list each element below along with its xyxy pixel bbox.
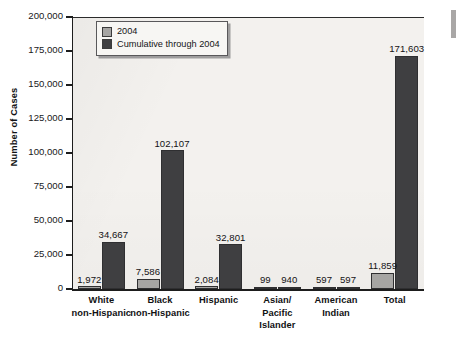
bar-value-label: 102,107 [143, 138, 201, 149]
x-axis-category-line: Indian [296, 307, 376, 320]
y-axis-tick-mark [66, 84, 73, 86]
bar [78, 286, 101, 289]
chart-legend: 2004 Cumulative through 2004 [96, 21, 228, 56]
y-axis-tick-mark [66, 254, 73, 256]
bar-value-label: 2,084 [178, 274, 236, 285]
bar [313, 287, 336, 289]
x-axis-labels: Whitenon-HispanicBlacknon-HispanicHispan… [72, 294, 424, 360]
legend-swatch-icon-2004 [102, 27, 112, 37]
bar-value-label: 32,801 [202, 232, 260, 243]
y-axis-tick-label: 125,000 [28, 112, 63, 123]
bar [395, 56, 418, 289]
legend-label-cumulative: Cumulative through 2004 [117, 39, 220, 50]
bar [137, 279, 160, 289]
bar-value-label: 171,603 [378, 43, 436, 54]
y-axis-tick-mark [66, 220, 73, 222]
bar [195, 286, 218, 289]
bar-value-label: 34,667 [84, 229, 142, 240]
legend-item-cumulative: Cumulative through 2004 [102, 38, 220, 50]
legend-label-2004: 2004 [117, 26, 137, 37]
y-axis-tick-mark [66, 152, 73, 154]
legend-item-2004: 2004 [102, 26, 220, 38]
y-axis-tick-label: 175,000 [28, 44, 63, 55]
page-edge-artifact [451, 10, 456, 38]
bar [337, 287, 360, 289]
y-axis-tick-label: 200,000 [28, 10, 63, 21]
bar-value-label: 1,972 [60, 274, 118, 285]
y-axis-tick-mark [66, 288, 73, 290]
y-axis-tick-label: 100,000 [28, 146, 63, 157]
x-axis-category-line: non-Hispanic [120, 307, 200, 320]
bar-value-label: 597 [319, 274, 377, 285]
y-axis-tick-label: 50,000 [34, 214, 63, 225]
bar [254, 287, 277, 289]
bar-value-label: 11,859 [354, 260, 412, 271]
y-axis-tick-label: 25,000 [34, 248, 63, 259]
x-axis-category-line: Total [355, 294, 435, 307]
x-axis-category-line: Islander [237, 319, 317, 332]
y-axis-tick-mark [66, 118, 73, 120]
bar-value-label: 7,586 [119, 266, 177, 277]
bar-chart-figure: 025,00050,00075,000100,000125,000150,000… [0, 0, 467, 364]
bar [278, 287, 301, 289]
y-axis-tick-label: 75,000 [34, 180, 63, 191]
y-axis-tick-mark [66, 186, 73, 188]
y-axis-tick-mark [66, 16, 73, 18]
y-axis-tick-label: 150,000 [28, 78, 63, 89]
legend-swatch-icon-cumulative [102, 39, 112, 49]
y-axis-tick-mark [66, 50, 73, 52]
y-axis-title: Number of Cases [9, 67, 19, 187]
x-axis-category-label: Total [355, 294, 435, 307]
x-axis-line [72, 289, 424, 291]
bars-layer: 1,97234,6677,586102,1072,08432,801999405… [73, 18, 423, 289]
